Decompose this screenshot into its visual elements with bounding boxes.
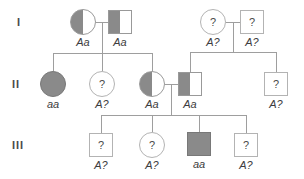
genotype-label: aa (193, 158, 205, 170)
unknown-mark: ? (249, 16, 255, 28)
genotype-label: A? (95, 98, 108, 110)
drop-line-II-1 (53, 53, 54, 71)
drop-line-III-3 (199, 115, 200, 132)
female-carrier-symbol (139, 71, 165, 97)
genotype-label: Aa (113, 36, 126, 48)
male-unknown-symbol: ? (264, 72, 288, 96)
female-unknown-symbol: ? (139, 132, 165, 158)
genotype-label: A? (245, 36, 258, 48)
drop-line-III-4 (246, 115, 247, 133)
female-unknown-symbol: ? (89, 71, 115, 97)
female-affected-symbol (40, 71, 66, 97)
female-unknown-symbol: ? (200, 9, 226, 35)
male-carrier-symbol (108, 10, 132, 34)
male-unknown-symbol: ? (89, 133, 113, 157)
drop-line-II-3 (152, 53, 153, 71)
unknown-mark: ? (99, 78, 105, 90)
unknown-mark: ? (210, 16, 216, 28)
sibship-line-II-right (190, 52, 276, 53)
unknown-mark: ? (149, 139, 155, 151)
descent-line-I-right (233, 22, 234, 52)
genotype-label: A? (94, 159, 107, 171)
male-unknown-symbol: ? (234, 133, 258, 157)
generation-label-2: II (12, 78, 20, 90)
genotype-label: A? (239, 159, 252, 171)
genotype-label: A? (206, 36, 219, 48)
generation-label-1: I (17, 16, 21, 28)
generation-label-3: III (12, 139, 24, 151)
genotype-label: Aa (183, 98, 196, 110)
sibship-line-II-left (53, 53, 152, 54)
male-unknown-symbol: ? (240, 10, 264, 34)
descent-line-I-left (102, 22, 103, 71)
genotype-label: A? (269, 98, 282, 110)
genotype-label: Aa (145, 98, 158, 110)
genotype-label: aa (47, 98, 59, 110)
sibship-line-III (101, 115, 246, 116)
unknown-mark: ? (98, 139, 104, 151)
drop-line-III-2 (152, 115, 153, 132)
genotype-label: A? (145, 159, 158, 171)
drop-line-III-1 (101, 115, 102, 133)
descent-line-II (171, 84, 172, 115)
genotype-label: Aa (76, 36, 89, 48)
unknown-mark: ? (243, 139, 249, 151)
drop-line-II-4 (190, 52, 191, 72)
pedigree-chart: I II III Aa Aa ? A? ? A? aa ? A? A (0, 0, 304, 179)
unknown-mark: ? (273, 78, 279, 90)
male-carrier-symbol (178, 72, 202, 96)
drop-line-II-5 (276, 52, 277, 72)
female-carrier-symbol (70, 9, 96, 35)
male-affected-symbol (187, 132, 211, 156)
